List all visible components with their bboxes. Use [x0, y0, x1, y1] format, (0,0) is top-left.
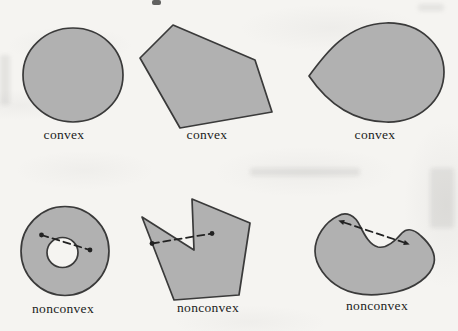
segment-endpoint-dot	[39, 233, 44, 238]
segment-endpoint-dot	[88, 248, 93, 253]
label-circle-convex: convex	[44, 127, 85, 143]
nonconvex-notched-polygon-shape	[142, 199, 250, 300]
scanned-figure-page: convex convex convex nonconvex nonconvex…	[0, 0, 458, 331]
label-annulus-nonconvex: nonconvex	[32, 301, 94, 317]
label-teardrop-convex: convex	[355, 127, 396, 143]
convex-disc-shape	[23, 28, 123, 122]
figure-canvas	[0, 0, 458, 331]
label-pentagon-convex: convex	[187, 127, 228, 143]
nonconvex-annulus-shape	[21, 207, 109, 296]
convex-teardrop-shape	[309, 23, 444, 122]
convex-pentagon-shape	[140, 25, 272, 128]
nonconvex-kidney-shape	[315, 214, 434, 295]
segment-endpoint-dot	[150, 241, 155, 246]
label-kidney-nonconvex: nonconvex	[346, 298, 408, 314]
label-notched-polygon-nonconvex: nonconvex	[177, 300, 239, 316]
segment-endpoint-dot	[210, 231, 215, 236]
